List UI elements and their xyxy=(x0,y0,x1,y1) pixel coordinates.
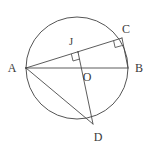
geometry-figure: A B C D O J xyxy=(0,0,160,150)
geometry-canvas xyxy=(0,0,160,150)
point-label-A: A xyxy=(8,62,17,74)
segment-AC xyxy=(26,38,122,68)
point-label-O: O xyxy=(83,71,92,83)
segment-CB xyxy=(122,38,128,68)
vertex-dot-A xyxy=(25,67,27,69)
point-label-B: B xyxy=(135,62,143,74)
vertex-dot-J xyxy=(77,51,79,53)
point-label-C: C xyxy=(122,23,130,35)
point-label-D: D xyxy=(94,131,103,143)
point-label-J: J xyxy=(69,37,73,48)
